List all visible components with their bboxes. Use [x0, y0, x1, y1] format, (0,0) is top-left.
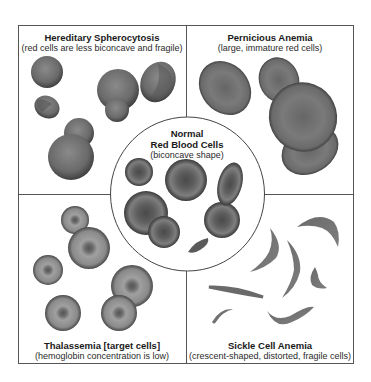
panel-subtitle: (crescent-shaped, distorted, fragile cel…	[186, 351, 354, 362]
center-title-line2: Red Blood Cells	[127, 139, 247, 150]
panel-label-sickle-cell-anemia: Sickle Cell Anemia (crescent-shaped, dis…	[186, 340, 354, 362]
panel-label-thalassemia: Thalassemia [target cells] (hemoglobin c…	[18, 340, 186, 362]
panel-subtitle: (red cells are less biconcave and fragil…	[18, 43, 186, 54]
panel-subtitle: (hemoglobin concentration is low)	[18, 351, 186, 362]
center-title-line1: Normal	[127, 128, 247, 139]
panel-title: Thalassemia [target cells]	[18, 340, 186, 351]
blood-cell-diagram: Hereditary Spherocytosis (red cells are …	[0, 0, 371, 382]
center-subtitle: (biconcave shape)	[127, 150, 247, 161]
panel-title: Sickle Cell Anemia	[186, 340, 354, 351]
center-label-normal-cells: Normal Red Blood Cells (biconcave shape)	[127, 128, 247, 161]
panel-label-pernicious-anemia: Pernicious Anemia (large, immature red c…	[186, 32, 354, 54]
panel-subtitle: (large, immature red cells)	[186, 43, 354, 54]
panel-label-hereditary-spherocytosis: Hereditary Spherocytosis (red cells are …	[18, 32, 186, 54]
panel-title: Pernicious Anemia	[186, 32, 354, 43]
diagram-canvas	[0, 0, 371, 382]
panel-title: Hereditary Spherocytosis	[18, 32, 186, 43]
